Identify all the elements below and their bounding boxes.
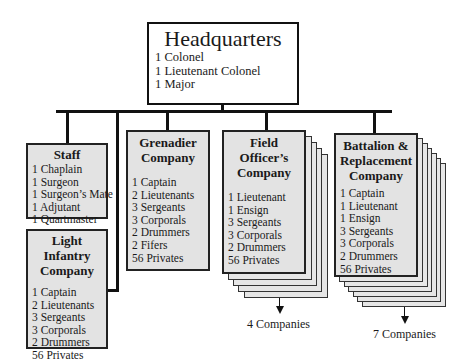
roster-item: 1 Quartmaster <box>32 213 106 226</box>
battalion-title: Battalion & Replacement Company <box>336 138 416 183</box>
arrow-down-icon <box>401 316 409 324</box>
roster-item: 1 Surgeon <box>32 176 106 189</box>
roster-item: 3 Corporals <box>340 237 416 250</box>
roster-item: 56 Privates <box>132 252 208 265</box>
staff-title: Staff <box>28 147 106 162</box>
roster-item: 2 Drummers <box>132 226 208 239</box>
field-officers-roster: 1 Lieutenant 1 Ensign 3 Sergeants 3 Corp… <box>224 191 304 267</box>
field-officers-title: Field Officer’s Company <box>224 135 304 180</box>
battalion-box: Battalion & Replacement Company 1 Captai… <box>334 133 418 277</box>
battalion-count-label: 7 Companies <box>373 327 436 342</box>
staff-roster: 1 Chaplain 1 Surgeon 1 Surgeon’s Mate 1 … <box>28 163 106 226</box>
roster-item: 3 Corporals <box>132 214 208 227</box>
roster-item: 1 Major <box>155 78 297 92</box>
title-line: Company <box>336 168 416 183</box>
roster-item: 56 Privates <box>32 349 106 362</box>
grenadier-title: Grenadier Company <box>128 135 208 165</box>
staff-drop-line <box>66 112 69 143</box>
roster-item: 3 Corporals <box>228 229 304 242</box>
field-officers-box: Field Officer’s Company 1 Lieutenant 1 E… <box>222 130 306 274</box>
battalion-roster: 1 Captain 1 Lieutenant 1 Ensign 3 Sergea… <box>336 187 416 275</box>
roster-item: 1 Chaplain <box>32 163 106 176</box>
roster-item: 1 Lieutenant <box>228 191 304 204</box>
title-line: Battalion & <box>336 138 416 153</box>
title-line: Grenadier <box>128 135 208 150</box>
light-infantry-drop-line <box>116 112 119 292</box>
headquarters-roster: 1 Colonel 1 Lieutenant Colonel 1 Major <box>149 51 297 92</box>
roster-item: 1 Surgeon’s Mate <box>32 188 106 201</box>
light-infantry-box: Light Infantry Company 1 Captain 2 Lieut… <box>26 229 108 349</box>
roster-item: 2 Drummers <box>340 250 416 263</box>
roster-item: 3 Sergeants <box>132 201 208 214</box>
field-officers-count-label: 4 Companies <box>247 317 310 332</box>
light-infantry-roster: 1 Captain 2 Lieutenants 3 Sergeants 3 Co… <box>28 286 106 362</box>
light-infantry-connector <box>107 289 119 292</box>
roster-item: 1 Ensign <box>340 212 416 225</box>
grenadier-roster: 1 Captain 2 Lieutenants 3 Sergeants 3 Co… <box>128 176 208 264</box>
headquarters-box: Headquarters 1 Colonel 1 Lieutenant Colo… <box>147 22 299 105</box>
roster-item: 1 Adjutant <box>32 201 106 214</box>
roster-item: 1 Captain <box>132 176 208 189</box>
roster-item: 1 Lieutenant <box>340 200 416 213</box>
main-horizontal-bar <box>56 110 392 113</box>
roster-item: 1 Ensign <box>228 204 304 217</box>
title-line: Company <box>28 263 106 278</box>
title-line: Field Officer’s <box>224 135 304 165</box>
roster-item: 2 Lieutenants <box>32 299 106 312</box>
roster-item: 1 Captain <box>340 187 416 200</box>
battalion-drop-line <box>373 112 376 133</box>
light-infantry-title: Light Infantry Company <box>28 233 106 278</box>
roster-item: 1 Colonel <box>155 51 297 65</box>
field-officers-drop-line <box>265 112 268 130</box>
roster-item: 3 Sergeants <box>32 311 106 324</box>
staff-box: Staff 1 Chaplain 1 Surgeon 1 Surgeon’s M… <box>26 143 108 219</box>
grenadier-drop-line <box>166 112 169 130</box>
roster-item: 56 Privates <box>340 263 416 276</box>
roster-item: 1 Captain <box>32 286 106 299</box>
roster-item: 2 Drummers <box>32 336 106 349</box>
headquarters-title: Headquarters <box>149 27 297 51</box>
grenadier-box: Grenadier Company 1 Captain 2 Lieutenant… <box>126 130 210 271</box>
roster-item: 2 Drummers <box>228 241 304 254</box>
title-line: Light Infantry <box>28 233 106 263</box>
roster-item: 1 Lieutenant Colonel <box>155 65 297 79</box>
arrow-down-icon <box>276 306 284 314</box>
title-line: Company <box>224 165 304 180</box>
title-line: Replacement <box>336 153 416 168</box>
roster-item: 2 Lieutenants <box>132 189 208 202</box>
roster-item: 2 Fifers <box>132 239 208 252</box>
roster-item: 3 Sergeants <box>340 225 416 238</box>
title-line: Company <box>128 150 208 165</box>
roster-item: 56 Privates <box>228 254 304 267</box>
roster-item: 3 Corporals <box>32 324 106 337</box>
roster-item: 3 Sergeants <box>228 216 304 229</box>
